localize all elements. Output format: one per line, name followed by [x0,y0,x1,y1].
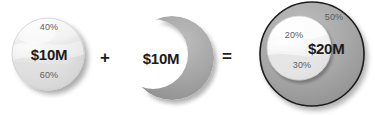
result-sphere-segment-50-label: 50% [316,12,352,22]
first-sphere-segment-bottom-label: 60% [28,70,70,80]
result-sphere-segment-20-label: 20% [276,30,312,40]
diagram-canvas: 40% $10M 60% + [0,0,375,115]
first-sphere-segment-top-label: 40% [28,22,70,32]
figure-first-sphere: 40% $10M 60% [10,8,94,108]
crescent-amount: $10M [130,50,192,67]
figure-crescent: $10M [128,8,218,110]
equals-operator-icon: = [222,47,232,67]
result-sphere-segment-30-label: 30% [284,60,320,70]
first-sphere-amount: $10M [19,46,79,63]
result-sphere-amount: $20M [308,40,368,57]
plus-operator-icon: + [100,48,110,68]
figure-result-sphere: 50% 20% 30% $20M [258,0,375,115]
